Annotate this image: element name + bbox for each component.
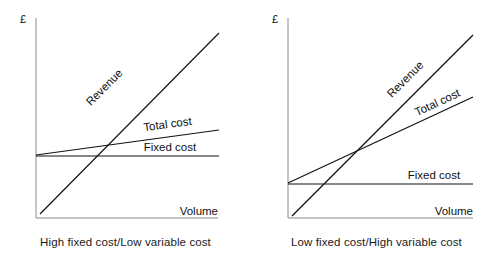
panel-low-fixed-high-variable: £ Volume Revenue Total cost Fixed cost L… (251, 0, 502, 261)
fixed-cost-label: Fixed cost (144, 141, 197, 153)
y-axis-label: £ (272, 13, 278, 25)
y-axis-label: £ (20, 13, 26, 25)
total-cost-label: Total cost (143, 115, 194, 133)
x-axis-label: Volume (180, 205, 218, 217)
revenue-line (40, 33, 219, 214)
panel-high-fixed-low-variable: £ Volume Revenue Total cost Fixed cost H… (0, 0, 251, 261)
panel-caption: Low fixed cost/High variable cost (251, 236, 502, 248)
fixed-cost-label: Fixed cost (408, 169, 461, 181)
revenue-label: Revenue (84, 67, 125, 108)
x-axis-label: Volume (435, 205, 473, 217)
panel-caption: High fixed cost/Low variable cost (0, 236, 251, 248)
chart-high-fixed-low-variable: £ Volume Revenue Total cost Fixed cost (0, 0, 251, 232)
chart-low-fixed-high-variable: £ Volume Revenue Total cost Fixed cost (251, 0, 502, 232)
revenue-label: Revenue (385, 59, 426, 100)
revenue-line (292, 35, 473, 216)
break-even-chart-figure: £ Volume Revenue Total cost Fixed cost H… (0, 0, 502, 261)
